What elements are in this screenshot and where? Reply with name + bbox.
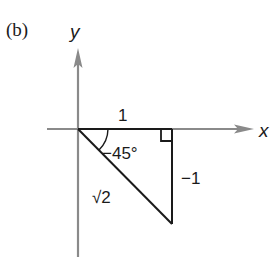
- x-axis-label: x: [258, 120, 270, 141]
- unit-triangle-diagram: (b) y x 1 −45° −1 √2: [0, 0, 279, 258]
- hypotenuse-label: √2: [92, 188, 111, 207]
- panel-label: (b): [6, 19, 28, 41]
- y-axis: [74, 48, 83, 257]
- right-angle-marker-icon: [161, 129, 172, 141]
- opposite-side-label: −1: [181, 169, 200, 188]
- figure-canvas: (b) y x 1 −45° −1 √2: [0, 0, 279, 258]
- adjacent-side-label: 1: [118, 106, 127, 125]
- y-axis-label: y: [68, 21, 81, 42]
- angle-label: −45°: [102, 144, 138, 163]
